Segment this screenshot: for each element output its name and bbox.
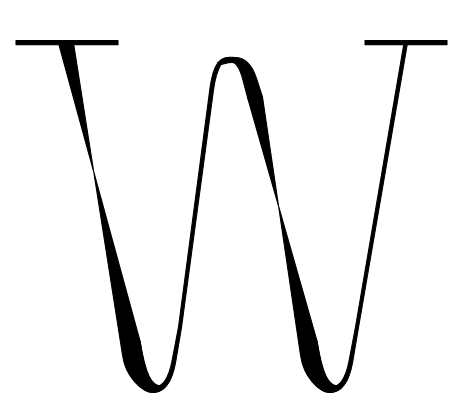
glyph-canvas: W W Capital letter W letterform bbox=[0, 0, 467, 413]
right-serif-stroke bbox=[365, 41, 447, 45]
capital-w-glyph bbox=[0, 0, 467, 413]
